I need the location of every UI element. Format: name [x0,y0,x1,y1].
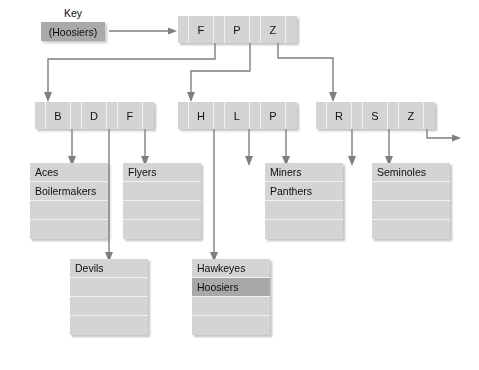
left-pointer-0[interactable] [35,102,46,129]
internal-node-left[interactable]: B D F [35,102,154,129]
left-pointer-2[interactable] [107,102,118,129]
key-value-box[interactable]: (Hoosiers) [41,22,105,41]
leaf-aces[interactable]: Aces Boilermakers [30,163,108,239]
root-key-1: P [225,16,250,43]
list-item[interactable] [123,201,201,220]
right-key-2: Z [399,102,424,129]
wire-root-to-right [278,39,333,92]
list-item[interactable]: Flyers [123,163,201,182]
list-item[interactable] [372,201,450,220]
arrowhead-right-p1 [348,156,356,166]
arrowhead-root-to-right [329,92,337,102]
root-node[interactable]: F P Z [178,16,297,43]
arrowhead-middle-p2 [245,156,253,166]
list-item[interactable] [192,297,270,316]
right-pointer-2[interactable] [388,102,399,129]
list-item[interactable] [372,220,450,239]
middle-key-1: L [225,102,250,129]
list-item[interactable] [192,316,270,335]
arrowhead-key-to-root [168,28,177,35]
right-pointer-1[interactable] [352,102,363,129]
list-item[interactable]: Panthers [265,182,343,201]
btree-index-diagram: Key (Hoosiers) F P Z B D F H L P R S Z [0,0,479,370]
key-label: Key [41,7,105,19]
list-item[interactable] [265,201,343,220]
list-item[interactable] [123,220,201,239]
list-item[interactable]: Aces [30,163,108,182]
leaf-devils[interactable]: Devils [70,259,148,335]
left-pointer-1[interactable] [71,102,82,129]
root-key-2: Z [261,16,286,43]
right-key-1: S [363,102,388,129]
root-pointer-1[interactable] [214,16,225,43]
middle-key-2: P [261,102,286,129]
list-item[interactable] [30,201,108,220]
list-item[interactable]: Boilermakers [30,182,108,201]
list-item[interactable]: Miners [265,163,343,182]
root-pointer-0[interactable] [178,16,189,43]
arrowhead-root-to-middle [187,92,195,102]
list-item[interactable] [70,297,148,316]
middle-pointer-1[interactable] [214,102,225,129]
arrowhead-root-to-left [44,92,52,102]
list-item[interactable] [265,220,343,239]
list-item[interactable] [70,316,148,335]
leaf-miners[interactable]: Miners Panthers [265,163,343,239]
left-pointer-3[interactable] [143,102,154,129]
wire-root-to-left [48,39,215,92]
internal-node-right[interactable]: R S Z [316,102,435,129]
list-item[interactable] [70,278,148,297]
right-key-0: R [327,102,352,129]
middle-key-0: H [189,102,214,129]
leaf-flyers[interactable]: Flyers [123,163,201,239]
middle-pointer-2[interactable] [250,102,261,129]
root-pointer-2[interactable] [250,16,261,43]
left-key-2: F [118,102,143,129]
right-pointer-3[interactable] [424,102,435,129]
middle-pointer-3[interactable] [286,102,297,129]
leaf-hawkeyes[interactable]: Hawkeyes Hoosiers [192,259,270,335]
middle-pointer-0[interactable] [178,102,189,129]
list-item[interactable]: Devils [70,259,148,278]
wire-root-to-middle [191,39,250,92]
list-item[interactable] [123,182,201,201]
list-item-highlighted[interactable]: Hoosiers [192,278,270,297]
internal-node-middle[interactable]: H L P [178,102,297,129]
root-key-0: F [189,16,214,43]
list-item[interactable]: Hawkeyes [192,259,270,278]
arrowhead-right-p3-overflow [452,135,461,142]
leaf-seminoles[interactable]: Seminoles [372,163,450,239]
list-item[interactable] [372,182,450,201]
left-key-0: B [46,102,71,129]
root-pointer-3[interactable] [286,16,297,43]
list-item[interactable] [30,220,108,239]
left-key-1: D [82,102,107,129]
right-pointer-0[interactable] [316,102,327,129]
list-item[interactable]: Seminoles [372,163,450,182]
